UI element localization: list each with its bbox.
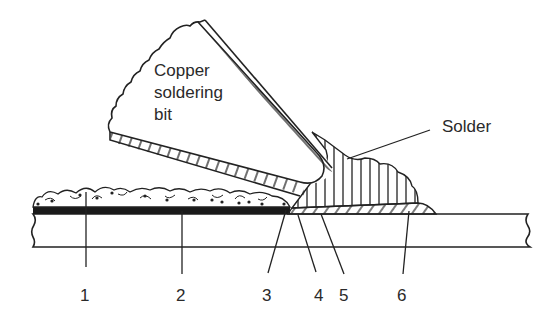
callout-5: 5 — [339, 286, 348, 306]
oxide-layer — [33, 207, 290, 214]
bit-label-line2: soldering — [154, 82, 223, 104]
callout-3: 3 — [262, 286, 271, 306]
bit-label-line1: Copper — [154, 60, 223, 82]
callout-6: 6 — [397, 286, 406, 306]
soldering-diagram — [0, 0, 548, 323]
bit-label-line3: bit — [154, 104, 223, 126]
copper-soldering-bit-label: Copper soldering bit — [154, 60, 223, 126]
callout-1: 1 — [80, 286, 89, 306]
leader-solder — [347, 130, 430, 159]
base-metal-plate — [32, 214, 530, 247]
solder-label: Solder — [442, 117, 491, 137]
flux-layer — [33, 187, 290, 207]
callout-4: 4 — [314, 286, 323, 306]
callout-2: 2 — [176, 286, 185, 306]
